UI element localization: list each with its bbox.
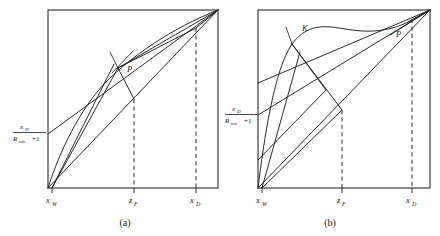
intercept-denominator-base-b: R	[224, 117, 230, 125]
q-line-b-extension	[286, 27, 292, 44]
axis-tick-label-xw-b: x W	[255, 195, 268, 207]
stripping-operating-line-b	[262, 110, 342, 188]
point-label-k-b: K	[301, 23, 309, 33]
intercept-numerator-sub-b: D	[236, 109, 241, 114]
axis-tick-base-xd-b: x	[405, 195, 410, 205]
converging-line-b-2	[408, 10, 430, 22]
intercept-label-b: x D R min +1	[224, 105, 257, 126]
figure-container: x W z F x D x D R min +1 P (a)	[0, 0, 440, 236]
axis-tick-base-xw-b: x	[255, 195, 260, 205]
panel-caption-b: (b)	[324, 217, 336, 229]
intercept-numerator-base-b: x	[231, 105, 236, 113]
axis-tick-label-xd-b: x D	[405, 195, 417, 207]
tangent-operating-line-b	[258, 10, 430, 83]
panel-b: x W z F x D x D R min +1 K P (b)	[0, 0, 440, 236]
axis-tick-sub-xw-b: W	[262, 201, 268, 207]
axis-tick-base-zf-b: z	[336, 195, 341, 205]
internal-line-b	[292, 44, 326, 90]
point-label-p-b: P	[395, 29, 401, 39]
intercept-denominator-op-b: +1	[244, 117, 252, 125]
internal-line-b-2	[258, 90, 326, 160]
axis-tick-sub-xd-b: D	[411, 201, 417, 207]
axis-tick-sub-zf-b: F	[341, 201, 346, 207]
intercept-denominator-sub-b: min	[231, 121, 239, 126]
axis-tick-label-zf-b: z F	[336, 195, 346, 207]
